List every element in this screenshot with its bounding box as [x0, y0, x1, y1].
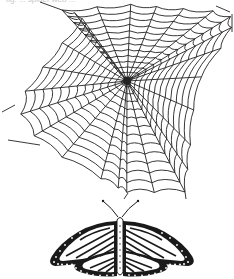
butterfly-group: [50, 200, 194, 277]
antenna-right-icon: [122, 201, 138, 217]
antenna-left-icon: [103, 201, 118, 217]
monarch-butterfly-illustration: [0, 0, 234, 279]
